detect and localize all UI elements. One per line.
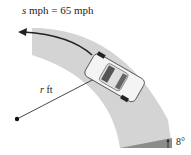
radius-unit: ft (44, 84, 53, 95)
road-diagram (0, 0, 191, 155)
arrow-head-icon (18, 28, 27, 36)
banked-curve-figure: s mph = 65 mph r ft 8° (0, 0, 191, 155)
speed-value: mph = 65 mph (26, 4, 93, 16)
radius-line (17, 76, 100, 119)
center-point (15, 117, 19, 121)
radius-label: r ft (40, 84, 53, 95)
speed-label: s mph = 65 mph (22, 4, 94, 16)
road-surface (32, 28, 172, 148)
bank-angle-label: 8° (176, 136, 185, 147)
